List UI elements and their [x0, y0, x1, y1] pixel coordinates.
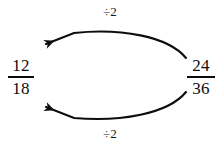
fraction-right-denominator: 36: [187, 80, 215, 97]
fraction-right: 24 36: [187, 57, 215, 97]
fraction-left: 12 18: [8, 57, 34, 97]
fraction-left-numerator: 12: [8, 57, 34, 74]
fraction-left-bar: [8, 76, 34, 78]
fraction-left-denominator: 18: [8, 80, 34, 97]
operation-label-bottom: ÷2: [80, 127, 140, 140]
fraction-equivalence-diagram: ÷2 12 18 24 36 ÷2: [0, 0, 220, 147]
fraction-right-numerator: 24: [187, 57, 215, 74]
denominator-divide-arrow: [46, 92, 186, 119]
numerator-divide-arrow: [46, 32, 186, 58]
fraction-right-bar: [187, 76, 215, 78]
operation-label-top: ÷2: [80, 5, 140, 18]
